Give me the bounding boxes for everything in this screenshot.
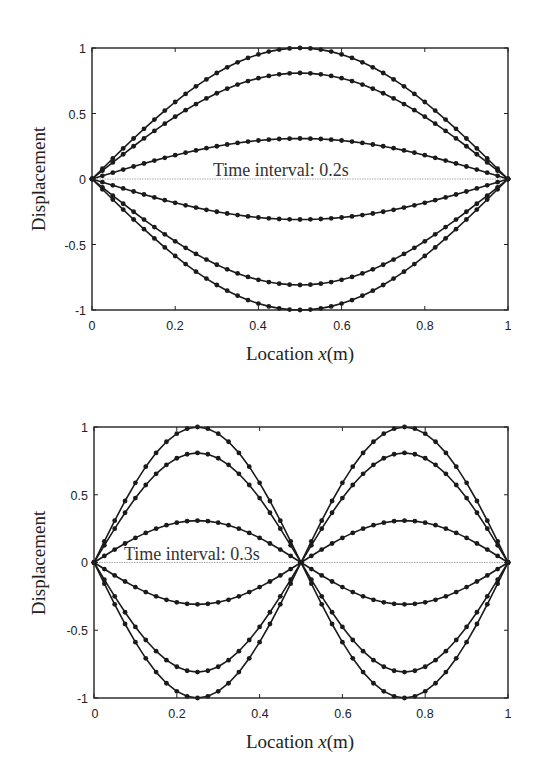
data-marker (133, 480, 138, 485)
plot-top: Time interval: 0.2s 0 0.2 0.4 0.6 0.8 1 … (28, 42, 512, 365)
data-marker (454, 590, 459, 595)
xtick-label: 0.6 (334, 707, 351, 721)
data-marker (164, 681, 169, 686)
data-marker (464, 585, 469, 590)
data-marker (268, 610, 273, 615)
data-marker (433, 658, 438, 663)
plot-top-yticklabels: 1 0.5 0 -0.5 -1 (64, 42, 86, 318)
ytick-label: -0.5 (64, 239, 86, 253)
data-marker (194, 269, 199, 274)
data-marker (309, 554, 314, 559)
plot-bottom-xlabel: Location x(m) (246, 731, 354, 753)
data-marker (173, 200, 178, 205)
data-marker (266, 137, 271, 142)
data-marker (214, 91, 219, 96)
data-marker (226, 597, 231, 602)
data-marker (412, 92, 417, 97)
data-marker (110, 183, 115, 188)
data-marker (112, 518, 117, 523)
xtick-label: 0.8 (416, 707, 433, 721)
plot-bottom-yticklabels: 1 0.5 0 -0.5 -1 (66, 421, 88, 706)
data-marker (381, 209, 386, 214)
data-marker (464, 640, 469, 645)
data-marker (214, 262, 219, 267)
data-marker (235, 213, 240, 218)
data-marker (278, 518, 283, 523)
data-marker (402, 252, 407, 257)
data-marker (381, 664, 386, 669)
data-marker (444, 649, 449, 654)
data-marker (195, 518, 200, 523)
data-marker (464, 625, 469, 630)
data-marker (330, 579, 335, 584)
data-marker (143, 530, 148, 535)
data-marker (433, 681, 438, 686)
data-marker (433, 108, 438, 113)
data-marker (454, 136, 459, 141)
data-marker (319, 518, 324, 523)
xtick-label: 0.2 (166, 319, 183, 333)
data-marker (237, 649, 242, 654)
data-marker (360, 60, 365, 65)
data-marker (475, 541, 480, 546)
data-marker (121, 167, 126, 172)
data-marker (216, 456, 221, 461)
data-marker (350, 79, 355, 84)
data-marker (412, 452, 417, 457)
data-marker (339, 215, 344, 220)
data-marker (454, 227, 459, 232)
data-marker (329, 280, 334, 285)
data-marker (340, 585, 345, 590)
data-marker (371, 658, 376, 663)
data-marker (204, 257, 209, 262)
data-marker (256, 301, 261, 306)
data-marker (444, 450, 449, 455)
data-marker (412, 601, 417, 606)
data-marker (121, 207, 126, 212)
data-marker (256, 76, 261, 81)
data-marker (464, 189, 469, 194)
data-marker (185, 601, 190, 606)
data-marker (443, 117, 448, 122)
data-marker (133, 625, 138, 630)
data-marker (205, 519, 210, 524)
data-marker (370, 65, 375, 70)
data-marker (454, 192, 459, 197)
data-marker (216, 600, 221, 605)
data-marker (143, 464, 148, 469)
data-marker (391, 96, 396, 101)
data-marker (257, 585, 262, 590)
data-marker (214, 144, 219, 149)
data-marker (485, 547, 490, 552)
data-marker (412, 262, 417, 267)
data-marker (247, 638, 252, 643)
data-marker (361, 649, 366, 654)
data-marker (246, 79, 251, 84)
data-marker (102, 581, 107, 586)
data-marker (330, 499, 335, 504)
data-marker (162, 232, 167, 237)
data-marker (174, 689, 179, 694)
data-marker (454, 126, 459, 131)
data-marker (319, 547, 324, 552)
data-marker (214, 209, 219, 214)
data-marker (131, 189, 136, 194)
data-marker (381, 600, 386, 605)
data-marker (247, 464, 252, 469)
data-marker (246, 214, 251, 219)
data-marker (204, 96, 209, 101)
data-marker (361, 670, 366, 675)
data-marker (100, 187, 105, 192)
data-marker (214, 283, 219, 288)
data-marker (423, 520, 428, 525)
data-marker (433, 462, 438, 467)
data-marker (443, 225, 448, 230)
data-marker (205, 452, 210, 457)
data-marker (288, 567, 293, 572)
data-marker (318, 137, 323, 142)
data-marker (485, 602, 490, 607)
data-marker (392, 668, 397, 673)
data-marker (444, 670, 449, 675)
data-marker (309, 577, 314, 582)
data-marker (256, 52, 261, 57)
